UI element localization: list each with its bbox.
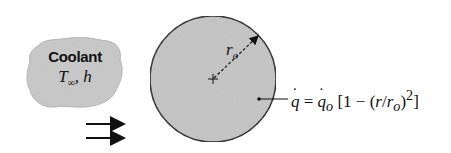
heat-generation-equation: q = qo [1 − (r/ro)2] xyxy=(291,87,419,115)
diagram-canvas: Coolant T∞, h ro q = qo [1 − (r/ro)2] xyxy=(0,0,451,153)
heat-transfer-coefficient: h xyxy=(83,67,92,86)
infinity-subscript: ∞ xyxy=(68,77,75,88)
coolant-label: Coolant xyxy=(40,48,110,65)
flow-arrows xyxy=(86,124,124,138)
radius-label: ro xyxy=(226,40,238,61)
temperature-symbol: T xyxy=(58,67,67,86)
coolant-parameters: T∞, h xyxy=(40,67,110,88)
